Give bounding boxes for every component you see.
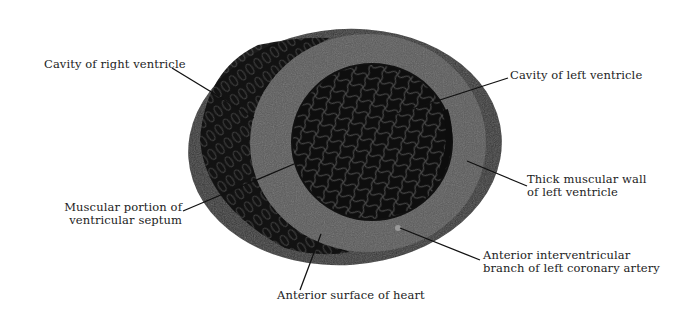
heart-cross-section-diagram: Cavity of right ventricle Cavity of left… — [0, 0, 679, 310]
label-left-ventricle-wall: Thick muscular wall of left ventricle — [527, 173, 647, 199]
label-line: Anterior surface of heart — [277, 289, 425, 302]
label-line: Cavity of left ventricle — [510, 69, 642, 82]
label-anterior-surface: Anterior surface of heart — [277, 289, 425, 302]
label-line: Cavity of right ventricle — [44, 58, 186, 71]
left-ventricle-cavity-shape — [292, 64, 452, 220]
label-line: ventricular septum — [64, 214, 182, 227]
label-anterior-interventricular-branch: Anterior interventricular branch of left… — [483, 249, 660, 275]
label-cavity-right-ventricle: Cavity of right ventricle — [44, 58, 186, 71]
label-cavity-left-ventricle: Cavity of left ventricle — [510, 69, 642, 82]
label-line: of left ventricle — [527, 186, 647, 199]
label-line: branch of left coronary artery — [483, 262, 660, 275]
label-muscular-septum: Muscular portion of ventricular septum — [64, 201, 182, 227]
